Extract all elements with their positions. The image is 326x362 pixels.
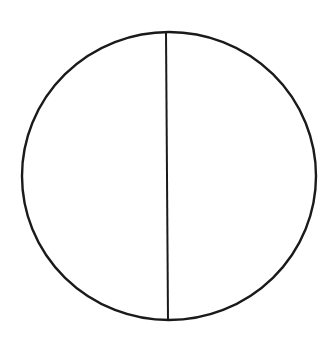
circle-outline	[22, 32, 316, 320]
vertical-diameter-line	[166, 32, 168, 320]
diagram-canvas	[0, 0, 326, 362]
